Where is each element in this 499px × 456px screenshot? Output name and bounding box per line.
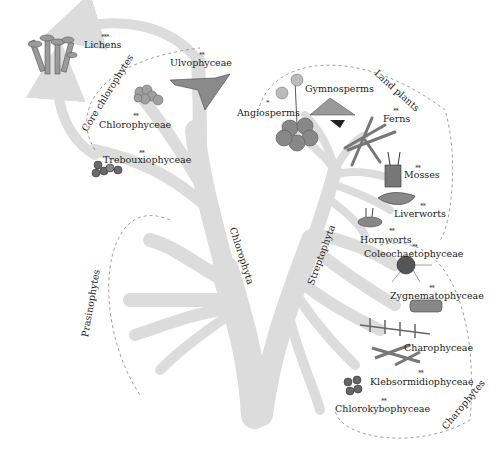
label-liverworts: Liverworts bbox=[394, 209, 446, 219]
charophyceae-icon bbox=[360, 318, 430, 338]
label-mosses: Mosses bbox=[404, 170, 440, 180]
lichens-icon bbox=[28, 35, 77, 74]
label-angiosperms: Angiosperms bbox=[237, 108, 300, 118]
chlorophyceae-icon bbox=[134, 85, 163, 105]
label-gymnosperms: Gymnosperms bbox=[305, 84, 374, 94]
label-coleochaetophyceae: Coleochaetophyceae bbox=[364, 249, 463, 259]
phylogeny-diagram: *** Lichens ** Ulvophyceae ** Chlorophyc… bbox=[0, 0, 499, 456]
chlorokybophyceae-icon bbox=[344, 376, 362, 395]
label-chlorophyceae: Chlorophyceae bbox=[99, 120, 171, 130]
zygnematophyceae-icon bbox=[410, 300, 442, 312]
label-hornworts: Hornworts bbox=[360, 235, 412, 245]
label-zygnematophyceae: Zygnematophyceae bbox=[390, 291, 484, 301]
hornworts-icon bbox=[358, 208, 382, 227]
label-ulvophyceae: Ulvophyceae bbox=[170, 58, 232, 68]
label-trebouxiophyceae: Trebouxiophyceae bbox=[103, 155, 191, 165]
label-klebsormidiophyceae: Klebsormidiophyceae bbox=[370, 377, 474, 387]
label-charophyceae: Charophyceae bbox=[404, 343, 473, 353]
label-lichens: Lichens bbox=[84, 40, 121, 50]
tree-graphic bbox=[0, 0, 499, 456]
mosses-icon bbox=[385, 152, 401, 187]
label-chlorokybophyceae: Chlorokybophyceae bbox=[335, 404, 430, 414]
label-ferns: Ferns bbox=[383, 114, 410, 124]
angiosperms-stars: * bbox=[266, 100, 269, 107]
